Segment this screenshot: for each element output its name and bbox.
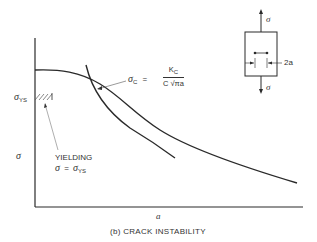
yielding-label: YIELDING σ = σYS (55, 154, 92, 174)
x-axis-label: a (156, 212, 161, 221)
diagram-canvas (0, 0, 317, 242)
sigma-c-equation-lhs: σC = (128, 74, 147, 85)
crack-length-label: 2a (284, 59, 293, 67)
sigma-c-arrowhead (97, 86, 102, 90)
fraction-numerator: KC (163, 66, 184, 78)
specimen-load-top: σ (266, 15, 270, 24)
yield-hatch (35, 94, 52, 100)
load-arrow-up-icon (259, 9, 263, 14)
specimen-drawing (245, 9, 282, 94)
fraction-denominator: C √πa (163, 78, 184, 88)
y-axis-label: σ (16, 151, 21, 161)
yielding-equation: σ = σYS (55, 163, 92, 174)
y-tick-sigma-ys: σYS (14, 92, 27, 103)
sigma-c-fraction: KC C √πa (163, 66, 184, 88)
yielding-leader (45, 104, 58, 150)
yielding-arrowhead (44, 103, 47, 108)
figure-caption: (b) CRACK INSTABILITY (110, 228, 206, 236)
specimen-load-bottom: σ (266, 83, 270, 92)
load-arrow-down-icon (259, 89, 263, 94)
